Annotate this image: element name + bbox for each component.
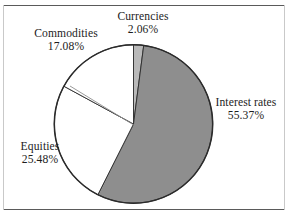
pie-slice-group — [54, 45, 212, 203]
pie-chart-figure: Currencies 2.06% Commodities 17.08% Equi… — [0, 0, 288, 217]
pie-label-equities-percent: 25.48% — [2, 153, 78, 166]
pie-label-interest-rates-percent: 55.37% — [204, 109, 288, 122]
pie-label-equities: Equities 25.48% — [2, 140, 78, 167]
pie-label-commodities: Commodities 17.08% — [14, 27, 118, 54]
pie-label-commodities-percent: 17.08% — [14, 40, 118, 53]
pie-label-commodities-name: Commodities — [14, 27, 118, 40]
pie-label-interest-rates-name: Interest rates — [204, 96, 288, 109]
pie-label-interest-rates: Interest rates 55.37% — [204, 96, 288, 123]
pie-label-equities-name: Equities — [2, 140, 78, 153]
pie-label-currencies-name: Currencies — [97, 10, 189, 23]
